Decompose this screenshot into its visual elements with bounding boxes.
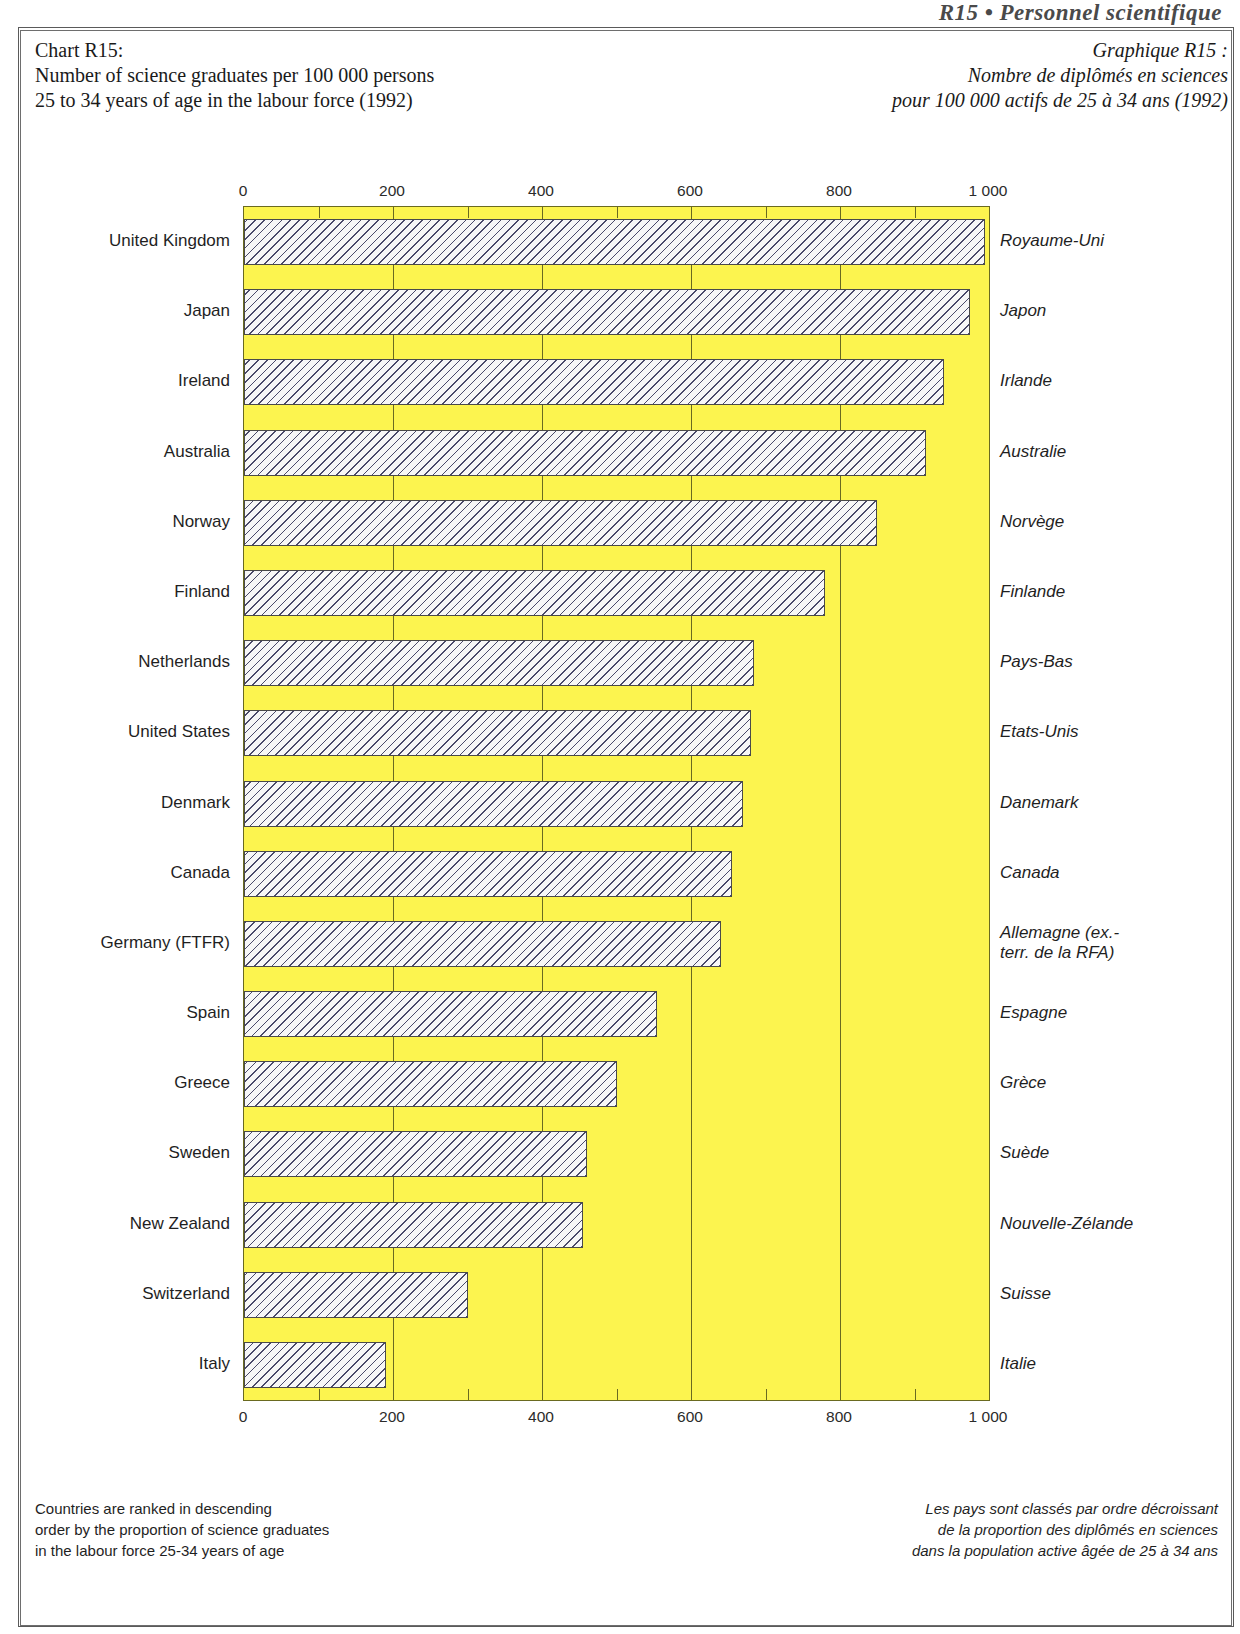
bar: [244, 500, 877, 546]
minor-tick-100: [319, 207, 320, 218]
footnote-english-line-1: Countries are ranked in descending: [35, 1498, 465, 1519]
category-label-english: New Zealand: [20, 1214, 230, 1234]
bar: [244, 1131, 587, 1177]
bar: [244, 851, 732, 897]
bar: [244, 570, 825, 616]
chart-title-french-line-2: Nombre de diplômés en sciences: [588, 63, 1228, 88]
x-tick-label-bottom-400: 400: [528, 1408, 554, 1426]
plot-area: [243, 206, 990, 1401]
x-tick-label-bottom-800: 800: [826, 1408, 852, 1426]
category-label-english: Ireland: [20, 371, 230, 391]
category-label-french-line: Danemark: [1000, 793, 1230, 813]
running-head: R15 • Personnel scientifique: [0, 0, 1240, 26]
chart-title-english-line-2: Number of science graduates per 100 000 …: [35, 63, 655, 88]
chart-title-french: Graphique R15 : Nombre de diplômés en sc…: [588, 38, 1228, 113]
category-label-french-line: Finlande: [1000, 582, 1230, 602]
footnote-english-line-2: order by the proportion of science gradu…: [35, 1519, 465, 1540]
category-label-french-line: Suisse: [1000, 1284, 1230, 1304]
bar: [244, 640, 754, 686]
bar: [244, 921, 721, 967]
footnote-english: Countries are ranked in descending order…: [35, 1498, 465, 1561]
category-label-english: Canada: [20, 863, 230, 883]
x-tick-label-bottom-200: 200: [379, 1408, 405, 1426]
minor-tick-300: [468, 1389, 469, 1400]
footnote-french: Les pays sont classés par ordre décroiss…: [698, 1498, 1218, 1561]
category-label-french: Australie: [1000, 442, 1230, 462]
category-label-french: Royaume-Uni: [1000, 231, 1230, 251]
category-label-french: Norvège: [1000, 512, 1230, 532]
category-label-french: Canada: [1000, 863, 1230, 883]
category-label-french: Suisse: [1000, 1284, 1230, 1304]
category-label-french-line: Nouvelle-Zélande: [1000, 1214, 1230, 1234]
category-label-french-line: Suède: [1000, 1143, 1230, 1163]
chart-title-english-line-3: 25 to 34 years of age in the labour forc…: [35, 88, 655, 113]
minor-tick-500: [617, 1389, 618, 1400]
category-label-french-line: Australie: [1000, 442, 1230, 462]
chart-title-french-line-1: Graphique R15 :: [588, 38, 1228, 63]
category-label-french: Allemagne (ex.-terr. de la RFA): [1000, 923, 1230, 963]
x-tick-label-top-200: 200: [379, 182, 405, 200]
x-tick-label-top-400: 400: [528, 182, 554, 200]
footnote-french-line-2: de la proportion des diplômés en science…: [698, 1519, 1218, 1540]
x-tick-label-bottom-600: 600: [677, 1408, 703, 1426]
category-label-french-line: Royaume-Uni: [1000, 231, 1230, 251]
category-label-french-line: Canada: [1000, 863, 1230, 883]
x-tick-label-top-600: 600: [677, 182, 703, 200]
category-label-french: Finlande: [1000, 582, 1230, 602]
category-label-english: Finland: [20, 582, 230, 602]
category-label-french-line: Espagne: [1000, 1003, 1230, 1023]
minor-tick-900: [915, 207, 916, 218]
category-label-english: United States: [20, 722, 230, 742]
category-label-french: Japon: [1000, 301, 1230, 321]
category-label-french-line: Italie: [1000, 1354, 1230, 1374]
category-label-french: Italie: [1000, 1354, 1230, 1374]
category-label-french: Pays-Bas: [1000, 652, 1230, 672]
x-tick-label-bottom-1000: 1 000: [969, 1408, 1008, 1426]
chart-title-french-line-3: pour 100 000 actifs de 25 à 34 ans (1992…: [588, 88, 1228, 113]
category-label-english: Italy: [20, 1354, 230, 1374]
bar: [244, 289, 970, 335]
category-label-english: Norway: [20, 512, 230, 532]
category-label-french-line: Norvège: [1000, 512, 1230, 532]
x-tick-label-top-0: 0: [239, 182, 248, 200]
category-label-english: Switzerland: [20, 1284, 230, 1304]
category-label-french: Grèce: [1000, 1073, 1230, 1093]
minor-tick-300: [468, 207, 469, 218]
category-label-french-line: Grèce: [1000, 1073, 1230, 1093]
bar: [244, 781, 743, 827]
bar: [244, 430, 926, 476]
chart-title-english-line-1: Chart R15:: [35, 38, 655, 63]
footnote-french-line-1: Les pays sont classés par ordre décroiss…: [698, 1498, 1218, 1519]
category-label-french: Espagne: [1000, 1003, 1230, 1023]
category-label-english: Greece: [20, 1073, 230, 1093]
category-label-french-line: terr. de la RFA): [1000, 943, 1230, 963]
category-label-french-line: Pays-Bas: [1000, 652, 1230, 672]
minor-tick-900: [915, 1389, 916, 1400]
category-label-french-line: Etats-Unis: [1000, 722, 1230, 742]
bar: [244, 359, 944, 405]
bar: [244, 1272, 468, 1318]
category-label-french: Danemark: [1000, 793, 1230, 813]
bar: [244, 219, 985, 265]
category-label-french: Suède: [1000, 1143, 1230, 1163]
bar: [244, 991, 657, 1037]
minor-tick-100: [319, 1389, 320, 1400]
minor-tick-700: [766, 207, 767, 218]
minor-tick-500: [617, 207, 618, 218]
bar: [244, 1061, 617, 1107]
category-label-english: Sweden: [20, 1143, 230, 1163]
category-label-english: Denmark: [20, 793, 230, 813]
category-label-english: Australia: [20, 442, 230, 462]
bar: [244, 710, 751, 756]
category-label-english: Japan: [20, 301, 230, 321]
category-label-french-line: Allemagne (ex.-: [1000, 923, 1230, 943]
x-tick-label-top-1000: 1 000: [969, 182, 1008, 200]
category-label-french: Nouvelle-Zélande: [1000, 1214, 1230, 1234]
category-label-french-line: Irlande: [1000, 371, 1230, 391]
category-label-english: United Kingdom: [20, 231, 230, 251]
category-label-french-line: Japon: [1000, 301, 1230, 321]
category-label-french: Irlande: [1000, 371, 1230, 391]
category-label-english: Germany (FTFR): [20, 933, 230, 953]
footnote-english-line-3: in the labour force 25-34 years of age: [35, 1540, 465, 1561]
bar: [244, 1202, 583, 1248]
